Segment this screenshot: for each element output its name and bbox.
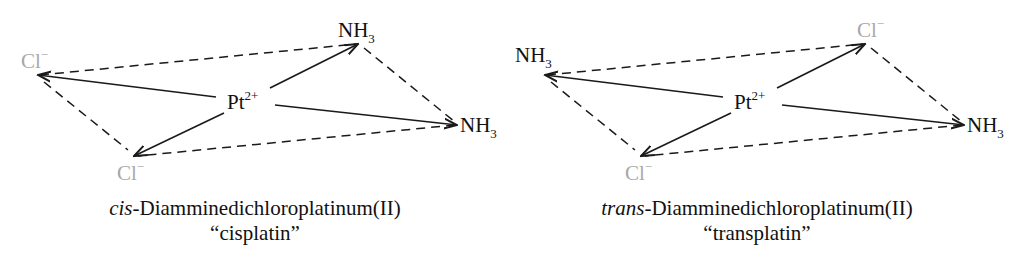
center-charge: 2+ [752,88,766,103]
cis-ligand-top-ammonia: NH3 [338,20,375,41]
isomer-prefix: cis [109,196,132,220]
ligand-subscript: 3 [545,56,552,71]
ligand-symbol: Cl [117,161,137,185]
trans-ligand-right-ammonia: NH3 [967,115,1004,136]
compound-name: -Diamminedichloroplatinum(II) [133,196,401,220]
ligand-charge: − [645,159,652,174]
trans-ligand-bottom-chloride: Cl− [625,163,652,184]
ligand-symbol: NH [515,43,545,67]
trans-common-name: “transplatin” [547,221,967,246]
trans-caption: trans-Diamminedichloroplatinum(II) “tran… [547,196,967,246]
ligand-symbol: NH [967,113,997,137]
cis-ligand-right-ammonia: NH3 [460,115,497,136]
compound-name: -Diamminedichloroplatinum(II) [644,196,912,220]
ligand-subscript: 3 [997,126,1004,141]
ligand-charge: − [41,47,48,62]
center-symbol: Pt [734,90,752,114]
cis-common-name: “cisplatin” [45,221,465,246]
cis-ligand-left-chloride: Cl− [21,51,48,72]
ligand-symbol: NH [460,113,490,137]
ligand-subscript: 3 [368,31,375,46]
ligand-symbol: NH [338,18,368,42]
isomer-prefix: trans [601,196,644,220]
ligand-subscript: 3 [490,126,497,141]
trans-center-platinum: Pt2+ [734,92,765,113]
trans-ligand-left-ammonia: NH3 [515,45,552,66]
ligand-symbol: Cl [625,161,645,185]
ligand-charge: − [877,16,884,31]
cis-caption: cis-Diamminedichloroplatinum(II) “cispla… [45,196,465,246]
trans-systematic-name: trans-Diamminedichloroplatinum(II) [547,196,967,221]
cis-center-platinum: Pt2+ [227,92,258,113]
trans-ligand-top-chloride: Cl− [857,20,884,41]
center-charge: 2+ [245,88,259,103]
ligand-symbol: Cl [21,49,41,73]
ligand-symbol: Cl [857,18,877,42]
center-symbol: Pt [227,90,245,114]
cis-ligand-bottom-chloride: Cl− [117,163,144,184]
cis-systematic-name: cis-Diamminedichloroplatinum(II) [45,196,465,221]
ligand-charge: − [137,159,144,174]
